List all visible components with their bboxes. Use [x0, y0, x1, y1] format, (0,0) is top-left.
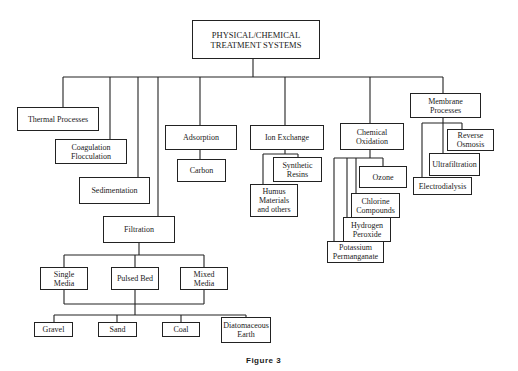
- node-single-media: Single Media: [40, 267, 88, 290]
- node-pulsed-bed: Pulsed Bed: [111, 267, 159, 290]
- node-mixed-media: Mixed Media: [180, 267, 228, 290]
- node-membrane-processes: Membrane Processes: [410, 93, 481, 118]
- treatment-systems-diagram: PHYSICAL/CHEMICAL TREATMENT SYSTEMS Ther…: [0, 0, 518, 371]
- node-chemical-oxidation: Chemical Oxidation: [340, 123, 404, 150]
- node-coagulation-flocculation: Coagulation Flocculation: [55, 139, 127, 164]
- node-electrodialysis: Electrodialysis: [413, 177, 472, 195]
- node-sand: Sand: [98, 322, 137, 337]
- node-thermal-processes: Thermal Processes: [17, 107, 99, 131]
- node-humus-materials: Humus Materials and others: [250, 184, 298, 217]
- node-chlorine-compounds: Chlorine Compounds: [351, 193, 400, 218]
- node-synthetic-resins: Synthetic Resins: [273, 157, 322, 182]
- figure-caption: Figure 3: [246, 356, 281, 365]
- node-gravel: Gravel: [34, 322, 73, 337]
- node-potassium-permanganate: Potassium Permanganate: [327, 241, 384, 263]
- node-adsorption: Adsorption: [165, 125, 237, 150]
- node-ion-exchange: Ion Exchange: [250, 125, 324, 150]
- node-reverse-osmosis: Reverse Osmosis: [447, 129, 494, 151]
- node-coal: Coal: [162, 322, 200, 337]
- node-sedimentation: Sedimentation: [79, 177, 150, 204]
- node-filtration: Filtration: [103, 216, 175, 243]
- root-node-physical-chemical-treatment: PHYSICAL/CHEMICAL TREATMENT SYSTEMS: [192, 20, 320, 59]
- node-diatomaceous-earth: Diatomaceous Earth: [221, 317, 271, 343]
- node-carbon: Carbon: [177, 159, 226, 182]
- node-hydrogen-peroxide: Hydrogen Peroxide: [343, 217, 391, 242]
- node-ultrafiltration: Ultrafiltration: [429, 153, 480, 176]
- node-ozone: Ozone: [359, 166, 407, 188]
